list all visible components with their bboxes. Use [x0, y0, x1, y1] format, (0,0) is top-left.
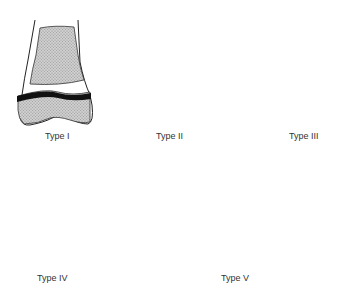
label-type-4: Type IV	[37, 273, 68, 283]
label-type-5: Type V	[221, 273, 249, 283]
label-type-2: Type II	[156, 131, 183, 141]
salter-harris-diagram	[0, 0, 357, 289]
label-type-1: Type I	[45, 131, 70, 141]
label-type-3: Type III	[289, 131, 319, 141]
panel-type-1	[17, 20, 93, 125]
